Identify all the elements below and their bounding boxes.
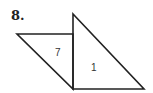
geometry-figure: 7 1	[0, 0, 153, 93]
left-triangle-label: 7	[55, 47, 61, 58]
right-triangle	[73, 14, 144, 89]
left-triangle	[17, 34, 73, 89]
right-triangle-label: 1	[91, 62, 97, 73]
